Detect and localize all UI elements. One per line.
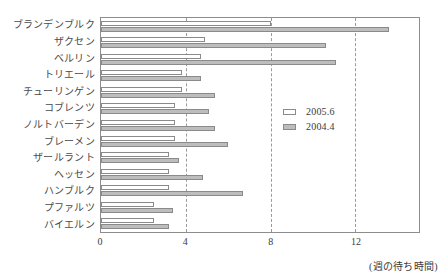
bar-2005.6: [101, 70, 182, 75]
bar-2005.6: [101, 152, 169, 157]
bar-2005.6: [101, 54, 201, 59]
x-tick-label: 8: [268, 236, 273, 247]
bar-row: [101, 34, 419, 50]
bar-2005.6: [101, 87, 182, 92]
category-label: ブレーメン: [0, 133, 98, 150]
x-tick-label: 12: [351, 236, 361, 247]
bar-row: [101, 199, 419, 215]
bar-2005.6: [101, 37, 205, 42]
bar-2005.6: [101, 120, 175, 125]
category-label: ベルリン: [0, 50, 98, 67]
bar-row: [101, 51, 419, 67]
bar-2004.4: [101, 76, 201, 81]
x-axis-title: (週の待ち時間): [369, 258, 438, 273]
category-label: バイエルン: [0, 216, 98, 233]
category-label: ノルトバーデン: [0, 117, 98, 134]
category-label: トリエール: [0, 67, 98, 84]
category-label: ヘッセン: [0, 166, 98, 183]
category-label: ザクセン: [0, 34, 98, 51]
bar-2004.4: [101, 191, 243, 196]
bar-2005.6: [101, 103, 175, 108]
category-label: プファルツ: [0, 200, 98, 217]
bar-row: [101, 117, 419, 133]
bar-2004.4: [101, 175, 203, 180]
bar-row: [101, 216, 419, 232]
category-label: ザールラント: [0, 150, 98, 167]
bar-2004.4: [101, 208, 173, 213]
legend-label: 2004.4: [306, 121, 335, 132]
bar-2005.6: [101, 202, 154, 207]
bar-2004.4: [101, 27, 389, 32]
bar-chart: ブランデンブルクザクセンベルリントリエールチューリンゲンコブレンツノルトバーデン…: [0, 0, 442, 280]
x-axis-ticks: 04812: [100, 236, 420, 250]
category-axis-labels: ブランデンブルクザクセンベルリントリエールチューリンゲンコブレンツノルトバーデン…: [0, 17, 98, 233]
x-tick-label: 4: [183, 236, 188, 247]
category-label: ハンブルク: [0, 183, 98, 200]
bar-row: [101, 84, 419, 100]
bar-2004.4: [101, 126, 215, 131]
bar-2004.4: [101, 224, 169, 229]
x-tick-label: 0: [98, 236, 103, 247]
bar-row: [101, 133, 419, 149]
bar-2004.4: [101, 109, 209, 114]
legend-label: 2005.6: [306, 106, 335, 117]
bar-2004.4: [101, 43, 326, 48]
bar-2005.6: [101, 169, 169, 174]
chart-legend: 2005.62004.4: [283, 104, 369, 134]
bar-rows: [101, 18, 419, 232]
bar-row: [101, 166, 419, 182]
bar-2005.6: [101, 185, 169, 190]
bar-row: [101, 67, 419, 83]
bar-2004.4: [101, 158, 179, 163]
legend-swatch-2005: [283, 109, 296, 115]
bar-2004.4: [101, 142, 228, 147]
legend-swatch-2004: [283, 124, 296, 130]
bar-row: [101, 183, 419, 199]
bar-row: [101, 150, 419, 166]
plot-area: [100, 17, 420, 233]
legend-item: 2004.4: [283, 119, 369, 134]
bar-2005.6: [101, 218, 154, 223]
bar-2004.4: [101, 93, 215, 98]
category-label: コブレンツ: [0, 100, 98, 117]
legend-item: 2005.6: [283, 104, 369, 119]
bar-row: [101, 18, 419, 34]
category-label: チューリンゲン: [0, 83, 98, 100]
bar-2004.4: [101, 60, 336, 65]
bar-row: [101, 100, 419, 116]
bar-2005.6: [101, 21, 271, 26]
bar-2005.6: [101, 136, 175, 141]
category-label: ブランデンブルク: [0, 17, 98, 34]
